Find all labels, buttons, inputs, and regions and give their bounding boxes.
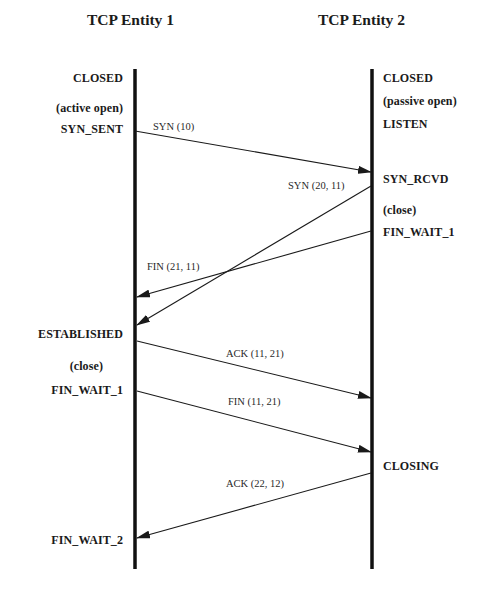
entity-2-state-fin-wait-1: FIN_WAIT_1	[383, 225, 455, 240]
message-label-syn-20-11: SYN (20, 11)	[288, 180, 344, 191]
entity-2-title: TCP Entity 2	[318, 11, 405, 29]
entity-2-state-syn-rcvd: SYN_RCVD	[383, 172, 448, 187]
entity-1-event-close: (close)	[70, 359, 103, 374]
diagram-lines	[0, 0, 489, 592]
message-label-ack-22-12: ACK (22, 12)	[226, 478, 284, 489]
message-label-ack-11-21: ACK (11, 21)	[226, 348, 284, 359]
entity-1-state-closed: CLOSED	[73, 71, 123, 86]
entity-1-title: TCP Entity 1	[87, 11, 174, 29]
entity-2-state-listen: LISTEN	[383, 117, 428, 132]
message-label-fin-21-11: FIN (21, 11)	[147, 261, 199, 272]
arrow-syn-10	[135, 131, 371, 172]
arrow-syn-20-11	[137, 186, 371, 325]
message-label-fin-11-21: FIN (11, 21)	[228, 396, 280, 407]
entity-2-state-closed: CLOSED	[383, 71, 433, 86]
tcp-sequence-diagram: TCP Entity 1 TCP Entity 2 CLOSED (active…	[0, 0, 489, 592]
entity-2-event-passive-open: (passive open)	[383, 94, 457, 109]
entity-1-state-syn-sent: SYN_SENT	[61, 122, 123, 137]
entity-2-state-closing: CLOSING	[383, 459, 439, 474]
entity-2-event-close: (close)	[383, 203, 416, 218]
entity-1-state-fin-wait-1: FIN_WAIT_1	[51, 383, 123, 398]
message-label-syn-10: SYN (10)	[153, 121, 194, 132]
entity-1-state-established: ESTABLISHED	[38, 327, 123, 342]
entity-1-state-fin-wait-2: FIN_WAIT_2	[51, 533, 123, 548]
entity-1-event-active-open: (active open)	[56, 101, 123, 116]
